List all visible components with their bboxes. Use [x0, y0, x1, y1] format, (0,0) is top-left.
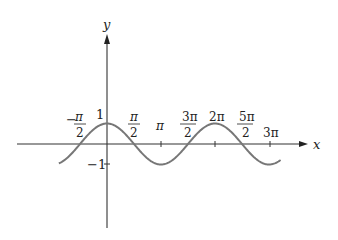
- y-tick-label-1: 1: [96, 107, 104, 122]
- y-axis-label: y: [102, 17, 111, 32]
- y-tick-label-minus-1: −1: [87, 157, 106, 172]
- cosine-graph: x y 1 −1 − π 2 π 2 π 3π 2 2π 5π 2 3π: [0, 0, 338, 240]
- svg-text:π: π: [129, 110, 139, 124]
- x-tick-label-neg-half-pi: − π 2: [66, 110, 86, 140]
- svg-text:2: 2: [76, 126, 84, 140]
- svg-text:2: 2: [130, 126, 138, 140]
- svg-text:π: π: [74, 110, 84, 124]
- svg-text:5π: 5π: [239, 110, 255, 124]
- x-tick-label-three-pi: 3π: [263, 126, 279, 140]
- x-tick-label-half-pi: π 2: [128, 110, 140, 140]
- x-tick-label-pi: π: [155, 119, 165, 133]
- x-axis-arrow-icon: [299, 141, 308, 147]
- x-tick-label-five-half-pi: 5π 2: [237, 110, 255, 140]
- x-axis-label: x: [313, 137, 321, 152]
- svg-text:2: 2: [184, 126, 192, 140]
- y-axis-arrow-icon: [104, 34, 110, 44]
- svg-text:2: 2: [242, 126, 250, 140]
- svg-text:3π: 3π: [182, 110, 198, 124]
- x-tick-label-two-pi: 2π: [209, 110, 225, 124]
